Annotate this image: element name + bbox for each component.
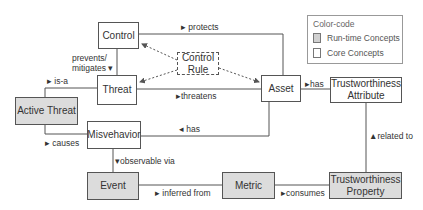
edge-label-causes: ▸ causes bbox=[45, 138, 79, 148]
edge-label-related-to: ▲related to bbox=[369, 131, 413, 141]
node-metric: Metric bbox=[222, 172, 275, 199]
edge-label-protects: ▸ protects bbox=[181, 22, 219, 32]
legend-label: Run-time Concepts bbox=[327, 33, 400, 43]
node-label: Metric bbox=[235, 180, 262, 192]
node-label: Active Threat bbox=[17, 105, 76, 117]
legend: Color-code Run-time Concepts Core Concep… bbox=[307, 15, 403, 64]
node-label: Control Rule bbox=[178, 52, 218, 76]
edge-label-inferred-from: ▸ inferred from bbox=[155, 188, 211, 198]
node-label: Trustworthiness Attribute bbox=[331, 78, 401, 102]
node-misbehavior: Misvehavior bbox=[87, 121, 141, 149]
node-event: Event bbox=[87, 172, 139, 200]
node-threat: Threat bbox=[97, 75, 137, 105]
legend-title: Color-code bbox=[313, 19, 355, 29]
legend-label: Core Concepts bbox=[327, 48, 384, 58]
node-control: Control bbox=[98, 22, 139, 49]
node-label: Threat bbox=[103, 84, 132, 96]
legend-item-core: Core Concepts bbox=[313, 48, 384, 58]
legend-item-runtime: Run-time Concepts bbox=[313, 33, 400, 43]
node-label: Trustworthiness Property bbox=[330, 174, 401, 198]
node-active-threat: Active Threat bbox=[15, 97, 78, 125]
edge-label-mitigates: mitigates ▾ bbox=[72, 63, 113, 73]
node-label: Control bbox=[102, 30, 134, 42]
edge-label-has-attribute: ▸has bbox=[305, 79, 324, 89]
edge-label-threatens: ▸threatens bbox=[176, 91, 216, 101]
node-trustworthiness-attribute: Trustworthiness Attribute bbox=[330, 77, 402, 103]
edge-label-is-a: ▸ is-a bbox=[47, 76, 68, 86]
edge-label-has-misbehavior: ◂ has bbox=[179, 124, 200, 134]
edge-label-observable-via: ▾observable via bbox=[115, 156, 175, 166]
node-label: Asset bbox=[268, 83, 293, 95]
node-trustworthiness-property: Trustworthiness Property bbox=[329, 172, 402, 199]
edge-label-consumes: ▸consumes bbox=[281, 188, 325, 198]
node-label: Misvehavior bbox=[87, 129, 140, 141]
node-asset: Asset bbox=[261, 75, 301, 102]
node-label: Event bbox=[100, 180, 126, 192]
runtime-swatch-icon bbox=[313, 33, 321, 43]
core-swatch-icon bbox=[313, 48, 321, 58]
edge-label-prevents: prevents/ bbox=[72, 53, 107, 63]
node-control-rule: Control Rule bbox=[177, 52, 219, 75]
